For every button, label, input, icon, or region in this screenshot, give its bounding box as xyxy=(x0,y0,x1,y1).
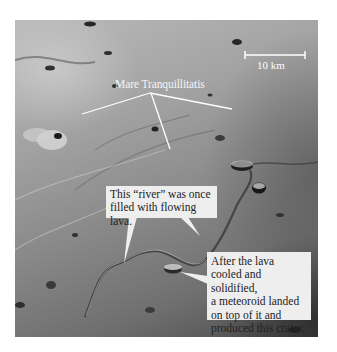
callout-line: cooled and solidified, xyxy=(211,268,307,295)
ridge xyxy=(15,57,95,63)
crater xyxy=(208,94,213,97)
callout-line: produced this crater. xyxy=(211,322,307,335)
crater-rim xyxy=(231,161,253,168)
crater xyxy=(54,133,62,139)
crater xyxy=(276,213,284,217)
crater xyxy=(104,51,112,55)
crater xyxy=(145,307,155,313)
crater xyxy=(46,281,56,289)
crater xyxy=(72,233,78,237)
crater xyxy=(45,66,55,71)
scale-bar-label: 10 km xyxy=(257,59,285,71)
ridge xyxy=(75,130,215,190)
bright-patch xyxy=(23,128,51,142)
callout-line: on top of it and xyxy=(211,309,307,322)
callout-line: filled with flowing lava. xyxy=(110,201,213,228)
crater-callout: After the lava cooled and solidified, a … xyxy=(207,252,311,320)
ridge xyxy=(95,115,190,150)
callout-line: After the lava xyxy=(211,255,307,268)
callout-line: This “river” was once xyxy=(110,188,213,201)
crater-rim xyxy=(164,264,182,270)
callout-line: a meteoroid landed xyxy=(211,295,307,308)
crater xyxy=(215,135,225,141)
crater xyxy=(15,302,25,308)
river-callout: This “river” was once filled with flowin… xyxy=(106,186,217,218)
region-label: Mare Tranquillitatis xyxy=(115,78,205,90)
crater-rim xyxy=(253,183,265,189)
crater xyxy=(232,39,242,45)
rille-branch xyxy=(253,162,318,164)
crater xyxy=(152,127,159,132)
lava-rille-highlight xyxy=(86,250,206,316)
crater xyxy=(84,22,96,27)
